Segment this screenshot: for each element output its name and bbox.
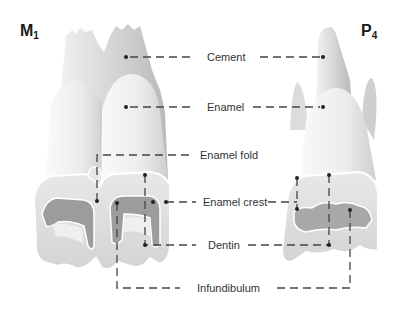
infundibulum-dot-p4 bbox=[348, 208, 352, 212]
label-infundibulum: Infundibulum bbox=[197, 282, 260, 294]
m1-title: M1 bbox=[20, 22, 39, 41]
cement-dot-p4 bbox=[321, 55, 325, 59]
dentin-dot-m1 bbox=[143, 243, 147, 247]
tooth-anatomy-diagram: M1 P4 Cement Enamel Enamel fold Enamel c… bbox=[0, 0, 405, 310]
enamel-crest-dot-m1-b bbox=[164, 200, 168, 204]
label-cement: Cement bbox=[207, 51, 246, 63]
m1-title-letter: M bbox=[20, 22, 33, 39]
p4-title-subscript: 4 bbox=[372, 30, 378, 41]
p4-title-letter: P bbox=[361, 22, 372, 39]
enamel-fold-dot bbox=[95, 199, 99, 203]
enamel-crest-dot-p4-a bbox=[295, 176, 299, 180]
infundibulum-dot-m1 bbox=[115, 201, 119, 205]
enamel-crest-dot-p4-b bbox=[295, 207, 299, 211]
enamel-crest-dot-m1-a bbox=[151, 200, 155, 204]
label-enamel-crest: Enamel crest bbox=[203, 196, 267, 208]
p4-tooth-illustration bbox=[282, 27, 378, 262]
dentin-dot-p4 bbox=[327, 243, 331, 247]
cement-dot-m1 bbox=[124, 55, 128, 59]
dentin-dot-p4-top bbox=[327, 173, 331, 177]
dentin-dot-m1-top bbox=[143, 173, 147, 177]
label-enamel-fold: Enamel fold bbox=[200, 149, 258, 161]
m1-title-subscript: 1 bbox=[33, 30, 39, 41]
p4-title: P4 bbox=[361, 22, 377, 41]
label-dentin: Dentin bbox=[208, 239, 240, 251]
enamel-dot-m1 bbox=[124, 105, 128, 109]
m1-tooth-illustration bbox=[34, 24, 170, 269]
enamel-dot-p4 bbox=[321, 105, 325, 109]
label-enamel: Enamel bbox=[207, 101, 244, 113]
